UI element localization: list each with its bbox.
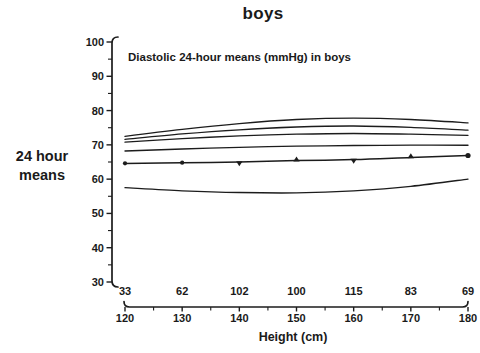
height-class-count: 102 [230,285,248,297]
curve-lower-curve [125,179,468,193]
y-tick-label: 30 [92,276,104,288]
mean-marker-dot [465,153,470,158]
mean-marker-dot [123,161,127,165]
y-tick-label: 70 [92,139,104,151]
mean-marker-triangle-up [293,156,299,161]
y-tick-label: 40 [92,242,104,254]
x-tick-label: 140 [230,312,248,324]
y-axis [112,37,118,287]
height-class-count: 83 [405,285,417,297]
mean-marker-triangle-up [408,153,414,158]
x-tick-label: 180 [459,312,477,324]
mean-marker-triangle-down [350,159,356,164]
y-tick-label: 60 [92,173,104,185]
chart-canvas: 3040506070809010012033130621401021501001… [0,0,480,353]
mean-marker-dot [180,161,184,165]
x-tick-label: 170 [402,312,420,324]
height-class-count: 115 [345,285,363,297]
y-tick-label: 100 [86,36,104,48]
x-tick-label: 120 [116,312,134,324]
curve-upper-curve-4 [125,145,468,151]
x-tick-label: 160 [344,312,362,324]
curve-upper-curve-2 [125,126,468,139]
x-tick-label: 130 [173,312,191,324]
height-class-count: 62 [176,285,188,297]
height-class-count: 33 [119,285,131,297]
mean-marker-triangle-down [236,161,242,166]
x-tick-label: 150 [287,312,305,324]
height-class-count: 100 [287,285,305,297]
height-class-count: 69 [462,285,474,297]
x-axis [124,302,468,308]
chart-figure: boys 24 hourmeans Diastolic 24-hour mean… [0,0,480,353]
y-tick-label: 80 [92,105,104,117]
y-tick-label: 50 [92,207,104,219]
y-tick-label: 90 [92,70,104,82]
